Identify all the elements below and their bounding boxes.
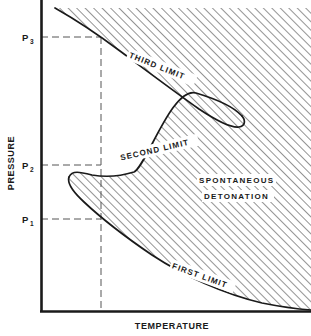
y-tick-label-p3: P [22,32,29,43]
explosion-limits-figure: P 3 P 2 P 1 PRESSURE TEMPERATURE THIRD L… [0,0,311,336]
y-tick-sub-p1: 1 [30,220,34,227]
region-label-line-2: DETONATION [204,192,269,201]
y-tick-label-p2: P [22,160,29,171]
y-tick-sub-p3: 3 [30,38,34,45]
region-label-line-1: SPONTANEOUS [199,176,275,185]
y-tick-sub-p2: 2 [30,166,34,173]
chart-canvas: P 3 P 2 P 1 PRESSURE TEMPERATURE THIRD L… [0,0,311,336]
y-tick-label-p1: P [22,214,29,225]
x-axis-title: TEMPERATURE [135,321,209,331]
y-axis-tick-labels: P 3 P 2 P 1 [22,32,34,227]
y-axis-title: PRESSURE [6,136,16,190]
